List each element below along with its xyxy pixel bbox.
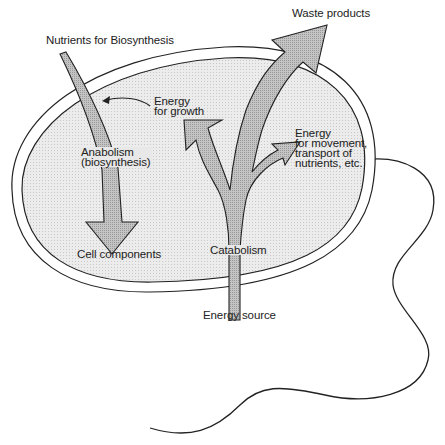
label-energy-for-movement: Energy for movement, transport of nutrie… (295, 128, 367, 168)
label-energy-for-movement-line4: nutrients, etc. (295, 158, 367, 168)
label-anabolism-line2: (biosynthesis) (80, 157, 152, 167)
label-energy-source: Energy source (203, 310, 276, 320)
label-anabolism: Anabolism (biosynthesis) (80, 147, 152, 167)
label-energy-for-growth: Energy for growth (154, 96, 204, 116)
label-waste-products: Waste products (292, 8, 370, 18)
label-catabolism: Catabolism (209, 245, 268, 255)
metabolism-diagram (0, 0, 445, 445)
label-cell-components: Cell components (77, 249, 161, 259)
label-energy-for-growth-line2: for growth (154, 106, 204, 116)
label-nutrients-for-biosynthesis: Nutrients for Biosynthesis (46, 35, 174, 45)
